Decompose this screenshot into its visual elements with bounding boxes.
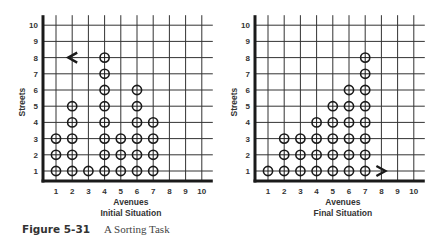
avenue-tick-label: 3 [86, 187, 91, 196]
beeper-icon [51, 150, 60, 159]
avenue-tick-label: 10 [409, 187, 418, 196]
beeper-icon [100, 69, 109, 78]
beeper-icon [68, 134, 77, 143]
street-tick-label: 1 [246, 167, 251, 176]
beeper-icon [116, 166, 125, 175]
beeper-icon [344, 118, 353, 127]
y-axis-label: Streets [229, 87, 239, 116]
beeper-icon [68, 150, 77, 159]
avenue-tick-label: 8 [379, 187, 384, 196]
avenue-tick-label: 10 [197, 187, 206, 196]
beeper-icon [132, 150, 141, 159]
beeper-icon [132, 102, 141, 111]
avenue-tick-label: 7 [363, 187, 368, 196]
beeper-icon [328, 166, 337, 175]
beeper-icon [100, 150, 109, 159]
street-tick-label: 10 [241, 21, 250, 30]
street-tick-label: 7 [246, 70, 251, 79]
beeper-icon [68, 118, 77, 127]
beeper-icon [100, 102, 109, 111]
street-tick-label: 6 [34, 86, 39, 95]
beeper-icon [68, 166, 77, 175]
beeper-icon [312, 118, 321, 127]
avenue-tick-label: 3 [298, 187, 303, 196]
beeper-icon [132, 134, 141, 143]
beeper-icon [100, 85, 109, 94]
beeper-icon [361, 53, 370, 62]
street-tick-label: 9 [246, 37, 251, 46]
street-tick-label: 3 [246, 135, 251, 144]
street-tick-label: 2 [246, 151, 251, 160]
beeper-icon [312, 166, 321, 175]
beeper-icon [100, 166, 109, 175]
beeper-icon [100, 118, 109, 127]
street-tick-label: 3 [34, 135, 39, 144]
beeper-icon [344, 134, 353, 143]
avenue-tick-label: 1 [266, 187, 271, 196]
avenue-tick-label: 1 [54, 187, 59, 196]
avenue-tick-label: 5 [119, 187, 124, 196]
beeper-icon [344, 102, 353, 111]
street-tick-label: 6 [246, 86, 251, 95]
avenue-tick-label: 4 [102, 187, 107, 196]
avenue-tick-label: 2 [70, 187, 75, 196]
beeper-icon [361, 102, 370, 111]
street-tick-label: 10 [29, 21, 38, 30]
beeper-icon [361, 150, 370, 159]
beeper-icon [149, 118, 158, 127]
beeper-icon [344, 166, 353, 175]
beeper-icon [361, 118, 370, 127]
beeper-icon [344, 150, 353, 159]
beeper-icon [149, 166, 158, 175]
panel-subtitle: Final Situation [314, 208, 373, 218]
panel-subtitle: Initial Situation [100, 208, 161, 218]
beeper-icon [68, 102, 77, 111]
street-tick-label: 5 [34, 102, 39, 111]
beeper-icon [344, 85, 353, 94]
final-situation-panel: 1234567891012345678910AvenuesFinal Situa… [229, 15, 425, 218]
beeper-icon [132, 118, 141, 127]
avenue-tick-label: 6 [347, 187, 352, 196]
street-tick-label: 2 [34, 151, 39, 160]
street-tick-label: 4 [246, 118, 251, 127]
avenue-tick-label: 8 [167, 187, 172, 196]
beeper-icon [361, 85, 370, 94]
avenue-tick-label: 4 [314, 187, 319, 196]
beeper-icon [328, 102, 337, 111]
beeper-icon [312, 150, 321, 159]
beeper-icon [132, 85, 141, 94]
initial-situation-panel: 1234567891012345678910AvenuesInitial Sit… [17, 15, 213, 218]
beeper-icon [280, 166, 289, 175]
figure-number: Figure 5-31 [22, 223, 90, 235]
x-axis-label: Avenues [113, 197, 148, 207]
avenue-tick-label: 9 [395, 187, 400, 196]
street-tick-label: 1 [34, 167, 39, 176]
beeper-icon [296, 150, 305, 159]
beeper-icon [361, 69, 370, 78]
beeper-icon [149, 150, 158, 159]
beeper-icon [296, 166, 305, 175]
figure-caption: Figure 5-31A Sorting Task [22, 219, 170, 237]
beeper-icon [280, 134, 289, 143]
avenue-tick-label: 6 [135, 187, 140, 196]
street-tick-label: 5 [246, 102, 251, 111]
beeper-icon [361, 134, 370, 143]
beeper-icon [51, 166, 60, 175]
beeper-icon [328, 118, 337, 127]
beeper-icon [328, 150, 337, 159]
beeper-icon [84, 166, 93, 175]
beeper-icon [296, 134, 305, 143]
street-tick-label: 8 [246, 54, 251, 63]
street-tick-label: 4 [34, 118, 39, 127]
beeper-icon [116, 134, 125, 143]
street-tick-label: 7 [34, 70, 39, 79]
y-axis-label: Streets [17, 87, 27, 116]
beeper-icon [361, 166, 370, 175]
beeper-icon [328, 134, 337, 143]
street-tick-label: 8 [34, 54, 39, 63]
beeper-icon [100, 53, 109, 62]
beeper-icon [312, 134, 321, 143]
avenue-tick-label: 9 [183, 187, 188, 196]
avenue-tick-label: 7 [151, 187, 156, 196]
avenue-tick-label: 2 [282, 187, 287, 196]
